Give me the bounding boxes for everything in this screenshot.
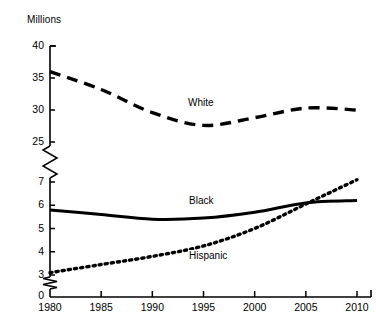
series-label-hispanic: Hispanic [188,250,228,261]
y-axis-tick-label: 35 [20,71,44,83]
x-axis-tick-label: 1985 [81,301,121,313]
y-axis-tick-label: 25 [20,135,44,147]
y-axis-tick-label: 40 [20,39,44,51]
x-axis-tick-label: 2005 [286,301,326,313]
x-axis-tick-label: 2000 [235,301,275,313]
x-axis-tick-label: 2010 [337,301,376,313]
axis-break-upper [43,146,57,178]
y-axis-tick-label: 5 [20,222,44,234]
x-axis-tick-label: 1990 [132,301,172,313]
y-axis-tick-label: 4 [20,245,44,257]
y-axis-tick-label: 30 [20,103,44,115]
x-axis-tick-label: 1995 [184,301,224,313]
y-axis-tick-label: 0 [20,289,44,301]
y-axis-tick-label: 6 [20,198,44,210]
chart-plot-area [0,0,376,330]
y-axis-tick-label: 3 [20,268,44,280]
series-label-black: Black [188,195,214,206]
y-axis-tick-label: 7 [20,175,44,187]
line-chart: Millions 25303540034567 1980198519901995… [0,0,376,330]
series-label-white: White [187,97,215,108]
x-axis-tick-label: 1980 [30,301,70,313]
axis-break-lower [43,277,57,289]
